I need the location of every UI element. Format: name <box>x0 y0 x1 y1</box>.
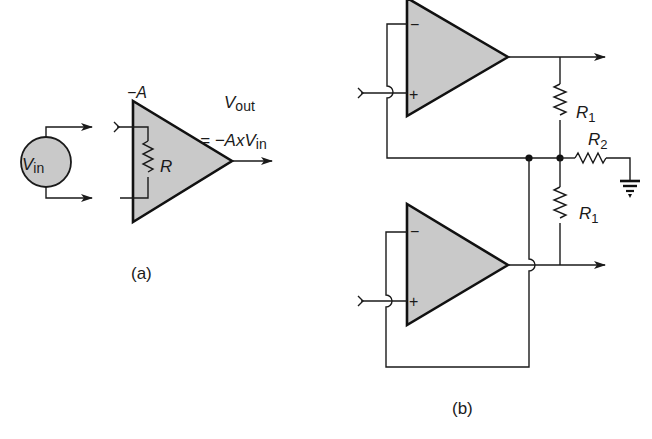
r1-top-label: R1 <box>576 103 596 125</box>
figure-a: −A Vin R Vout = −AxVin (a) <box>21 84 272 283</box>
output-equation: = −AxVin <box>200 131 267 152</box>
resistor-r2-icon <box>575 153 606 163</box>
gain-label: −A <box>127 84 147 101</box>
resistor-r1-bottom-icon <box>554 187 566 218</box>
r2-ground-wire <box>606 158 630 180</box>
caption-a: (a) <box>131 264 152 283</box>
bottom-amp-minus: − <box>410 223 419 240</box>
output-label: Vout <box>224 93 255 114</box>
ground-icon <box>620 181 640 198</box>
caption-b: (b) <box>452 399 473 418</box>
source-bottom-lead <box>46 187 92 198</box>
top-amp-minus: − <box>410 16 419 33</box>
bottom-amplifier <box>407 204 508 325</box>
top-amplifier <box>407 0 508 116</box>
r2-label: R2 <box>588 130 608 152</box>
r1-bottom-label: R1 <box>579 204 599 226</box>
resistor-r1-top-icon <box>554 84 566 115</box>
resistor-label: R <box>160 157 172 176</box>
circuit-diagram: −A Vin R Vout = −AxVin (a) − + R1 <box>0 0 652 439</box>
source-top-lead <box>46 127 92 137</box>
figure-b: − + R1 R2 R1 − + <box>358 0 640 418</box>
bottom-amp-plus: + <box>409 293 418 310</box>
top-amp-plus: + <box>409 86 418 103</box>
